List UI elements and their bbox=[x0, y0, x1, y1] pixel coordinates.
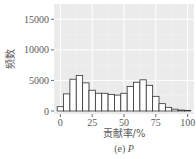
histogram-bar bbox=[184, 110, 190, 111]
histogram-bar bbox=[165, 107, 171, 111]
histogram-bar bbox=[102, 93, 108, 111]
histogram-bar bbox=[121, 93, 127, 111]
x-tick-label: 50 bbox=[119, 117, 129, 128]
histogram-bar bbox=[172, 109, 178, 111]
histogram-bar bbox=[95, 93, 101, 111]
y-axis: 050001000015000 bbox=[24, 14, 54, 117]
x-tick-label: 25 bbox=[87, 117, 97, 128]
histogram-bar bbox=[159, 104, 165, 111]
histogram-bar bbox=[64, 94, 70, 111]
histogram-bar bbox=[146, 85, 152, 111]
histogram-bar bbox=[83, 83, 89, 111]
caption-prefix: (e) bbox=[114, 143, 128, 155]
histogram-bar bbox=[153, 96, 159, 111]
x-axis: 0255075100 bbox=[58, 114, 195, 128]
histogram-bar bbox=[114, 95, 120, 111]
histogram-bar bbox=[178, 110, 184, 111]
figure-caption: (e) P bbox=[114, 143, 134, 155]
y-tick-label: 5000 bbox=[29, 75, 49, 86]
x-tick-label: 75 bbox=[151, 117, 161, 128]
x-axis-title: 贡献率/% bbox=[103, 127, 146, 139]
histogram-bar bbox=[140, 80, 146, 111]
y-tick-label: 0 bbox=[44, 106, 49, 117]
caption-variable: P bbox=[127, 143, 134, 154]
x-tick-label: 0 bbox=[58, 117, 63, 128]
x-tick-label: 100 bbox=[180, 117, 195, 128]
histogram-bar bbox=[108, 94, 114, 111]
histogram-bar bbox=[70, 79, 76, 111]
histogram-chart: 050001000015000 0255075100 频数 贡献率/% (e) … bbox=[0, 0, 196, 159]
y-tick-label: 15000 bbox=[24, 14, 49, 25]
histogram-bar bbox=[134, 82, 140, 111]
histogram-bar bbox=[89, 90, 95, 111]
histogram-bar bbox=[57, 107, 63, 111]
histogram-bar bbox=[76, 76, 82, 111]
histogram-bar bbox=[127, 87, 133, 111]
y-tick-label: 10000 bbox=[24, 44, 49, 55]
y-axis-title: 频数 bbox=[4, 49, 16, 69]
